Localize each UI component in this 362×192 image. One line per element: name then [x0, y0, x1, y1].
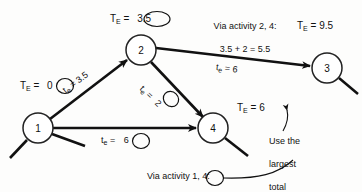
te-node3-subscript: E	[303, 25, 308, 32]
stub-from-node4-lower-right	[225, 138, 248, 156]
node-4-label: 4	[210, 123, 216, 134]
use-largest-line1: Use the	[269, 136, 300, 148]
annotation-via-activity-2-4: Via activity 2, 4: 3.5 + 2 = 5.5	[195, 9, 295, 67]
edge-1-4-subscript: e	[104, 139, 108, 146]
te-node4-subscript: E	[243, 107, 248, 114]
use-largest-line3: total	[269, 182, 300, 192]
node-1-label: 1	[35, 123, 41, 134]
edge-label-1-to-4: te = 6	[101, 135, 135, 146]
stub-from-node3-lower-right	[339, 78, 358, 94]
edge-1-4-equals: =	[110, 135, 115, 145]
te-node3-equals: =	[311, 20, 317, 31]
via-2-4-line1: Via activity 2, 4:	[195, 21, 295, 33]
te-label-node2: TE = 3.5	[110, 13, 156, 26]
te-node2-equals: =	[124, 13, 130, 24]
node-2[interactable]: 2	[126, 35, 156, 65]
stub-into-node1-lower-left	[10, 140, 27, 158]
edge-1-4-value: 6	[118, 135, 135, 145]
te-node4-value: 6	[259, 102, 265, 113]
edge-2-3-subscript: e	[218, 66, 223, 73]
stub-from-node1-lower-right	[52, 134, 85, 146]
node-1[interactable]: 1	[23, 113, 53, 143]
ring-te-edge-1-4	[133, 134, 150, 149]
via-2-4-line2: 3.5 + 2 = 5.5	[195, 44, 295, 56]
te-node1-equals: =	[34, 80, 40, 91]
node-2-label: 2	[138, 45, 144, 56]
node-3-label: 3	[324, 63, 330, 74]
te-label-node1: TE = 0	[20, 80, 57, 93]
annotation-use-largest-total: Use the largest total	[269, 124, 300, 192]
figure-canvas: 1 2 3 4 TE = 0	[0, 0, 362, 192]
annotation-via-activity-1-4: Via activity 1, 4: 0 + 6 = 6	[147, 159, 210, 192]
via-1-4-line1: Via activity 1, 4:	[147, 171, 210, 183]
te-label-node3: TE = 9.5	[297, 20, 333, 33]
te-node2-value: 3.5	[132, 13, 156, 25]
te-node1-subscript: E	[26, 85, 31, 92]
te-node2-subscript: E	[116, 18, 121, 25]
te-label-node4: TE = 6	[237, 102, 265, 115]
node-3[interactable]: 3	[312, 53, 342, 83]
te-node3-value: 9.5	[319, 20, 333, 31]
node-4[interactable]: 4	[198, 113, 228, 143]
use-largest-line2: largest	[269, 159, 300, 171]
te-node4-equals: =	[251, 102, 257, 113]
te-node1-value: 0	[42, 80, 57, 92]
